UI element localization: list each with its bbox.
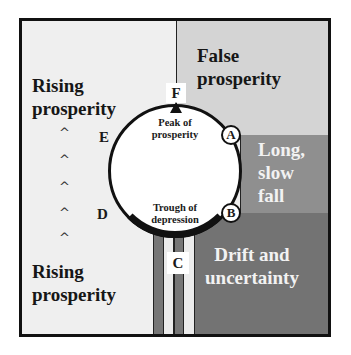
trough-line2: depression xyxy=(135,214,215,226)
peak-arrow-icon xyxy=(170,102,182,113)
bar-dark-1 xyxy=(153,231,164,334)
rising-prosperity-bottom-label: Rising prosperity xyxy=(32,260,116,306)
point-b-node: B xyxy=(221,203,241,223)
up-arrow-icon: ^ xyxy=(59,179,70,194)
drift-line2: uncertainty xyxy=(205,266,299,289)
long-line2: slow xyxy=(258,161,305,184)
long-slow-fall-region: Long, slow fall xyxy=(240,135,328,214)
peak-line2: prosperity xyxy=(135,129,215,141)
point-e-label: E xyxy=(99,129,109,146)
up-arrow-icon: ^ xyxy=(59,125,70,140)
drift-line1: Drift and xyxy=(205,243,299,266)
up-arrow-icon: ^ xyxy=(59,230,70,245)
peak-line1: Peak of xyxy=(135,117,215,129)
rising-prosperity-top-label: Rising prosperity xyxy=(32,74,116,120)
rising-bottom-line1: Rising xyxy=(32,260,116,283)
point-d-label: D xyxy=(97,206,108,223)
bar-dark-2 xyxy=(174,231,184,334)
false-line2: prosperity xyxy=(197,67,281,90)
drift-uncertainty-region: Drift and uncertainty xyxy=(195,213,328,334)
trough-line1: Trough of xyxy=(135,202,215,214)
point-c-label: C xyxy=(167,252,189,274)
up-arrow-icon: ^ xyxy=(59,152,70,167)
up-arrow-icon: ^ xyxy=(59,205,70,220)
long-line1: Long, xyxy=(258,138,305,161)
drift-uncertainty-label: Drift and uncertainty xyxy=(205,243,299,289)
peak-of-prosperity-label: Peak of prosperity xyxy=(135,117,215,141)
bar-light-2 xyxy=(184,231,195,334)
point-f-label: F xyxy=(166,83,186,103)
long-line3: fall xyxy=(258,184,305,207)
rising-top-line1: Rising xyxy=(32,74,116,97)
business-cycle-diagram: Rising prosperity ^ ^ ^ ^ ^ E D Rising p… xyxy=(19,18,331,337)
trough-of-depression-label: Trough of depression xyxy=(135,202,215,226)
bar-light-1 xyxy=(164,231,174,334)
rising-top-line2: prosperity xyxy=(32,97,116,120)
false-prosperity-label: False prosperity xyxy=(197,44,281,90)
rising-bottom-line2: prosperity xyxy=(32,283,116,306)
long-slow-fall-label: Long, slow fall xyxy=(258,138,305,207)
point-a-node: A xyxy=(221,125,241,145)
false-line1: False xyxy=(197,44,281,67)
